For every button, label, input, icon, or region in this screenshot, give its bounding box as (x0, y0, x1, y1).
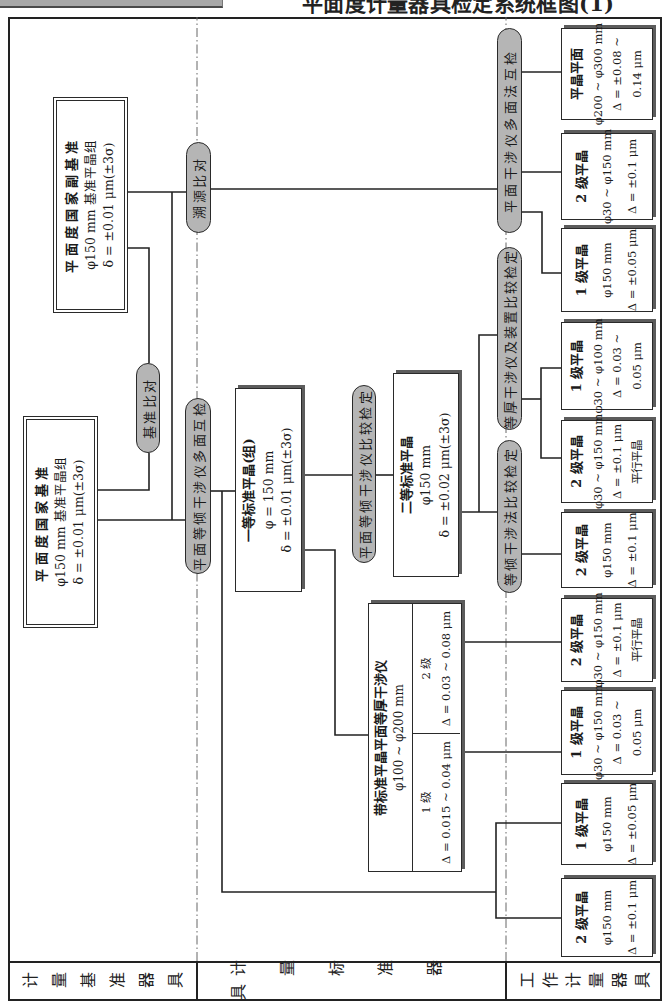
method-reference-comparison: 基准比对 (136, 363, 160, 453)
interferometer-grade-1: 1 级 Δ = 0.015 ~ 0.04 μm (413, 733, 460, 871)
method-equal-thickness-device: 等厚干涉仪及装置比较检定 (497, 247, 522, 430)
standard-flat-interferometer-box: 带标准平晶平面等厚干涉仪 φ100 ~ φ200 mm 1 级 Δ = 0.01… (368, 603, 462, 872)
working-instrument-box: 2 级平晶 φ30 ~ φ150 mm Δ = ±0.1 μm 平行平晶 (561, 598, 653, 682)
second-grade-standard-flat-box: 二等标准平晶 φ150 mm δ = ±0.02 μm(±3σ) (393, 373, 459, 577)
working-instrument-box: 1 级平晶 φ150 mm Δ = ±0.05 μm (561, 228, 653, 312)
working-instrument-box: 2 级平晶 φ150 mm Δ = ±0.1 μm (561, 512, 653, 588)
section-header-tab (0, 0, 223, 8)
interferometer-grade-2: 2 级 Δ = 0.03 ~ 0.08 μm (413, 604, 460, 733)
interferometer-header: 带标准平晶平面等厚干涉仪 φ100 ~ φ200 mm (369, 604, 413, 871)
interferometer-grades: 1 级 Δ = 0.015 ~ 0.04 μm 2 级 Δ = 0.03 ~ 0… (413, 604, 460, 871)
working-instrument-box: 1 级平晶 φ30 ~ φ100 mm Δ = 0.03 ~ 0.05 μm (561, 322, 653, 410)
method-traceability-comparison: 溯源比对 (186, 142, 211, 233)
working-instrument-box: 1 级平晶 φ150 mm Δ = ±0.05 μm (561, 783, 653, 865)
page-title: 平面度计量器具检定系统框图(1) (302, 0, 614, 17)
first-grade-standard-flat-box: 一等标准平晶(组) φ = 150 mm δ = ±0.01 μm(±3σ) (235, 388, 302, 592)
method-equal-inclination-method: 等倾干涉法比较检定 (497, 440, 522, 593)
working-instrument-box: 2 级平晶 φ150 mm Δ = ±0.1 μm (561, 878, 653, 957)
national-standard-box: 平面度国家基准 φ150 mm 基准平晶组 δ = ±0.01 μm(±3σ) (23, 416, 98, 628)
working-instrument-box: 2 级平晶 φ30 ~ φ150 mm Δ = ±0.1 μm (561, 133, 653, 220)
method-equal-inclination-multi-face: 平面等倾干涉仪多面互检 (185, 398, 211, 574)
verification-scheme-diagram: 计量基准器具 计量标准器具 工作计量器具 (8, 17, 662, 1001)
national-secondary-standard-box: 平面度国家副基准 φ150 mm 基准平晶组 δ = ±0.01 μm(±3σ) (53, 97, 128, 313)
method-equal-inclination-comparison: 平面等倾干涉仪比较检定 (352, 385, 376, 563)
working-instrument-box: 2 级平晶 φ30 ~ φ150 mm Δ = ±0.1 μm 平行平晶 (561, 420, 653, 503)
method-plane-interferometer-multi-face: 平面干涉仪多面法互检 (497, 28, 522, 233)
working-instrument-box: 1 级平晶 φ30 ~ φ150 mm Δ = 0.03 ~ 0.05 μm (561, 690, 653, 775)
working-instrument-box: 平晶平面 φ200 ~ φ300 mm Δ = ±0.08 ~ 0.14 μm (561, 28, 653, 120)
